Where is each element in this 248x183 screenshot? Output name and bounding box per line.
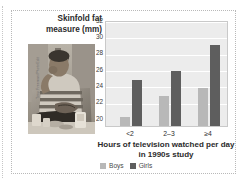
bar-girls-ge4[interactable] xyxy=(210,45,220,126)
legend-swatch-boys-icon xyxy=(100,163,106,169)
gridline xyxy=(106,71,227,72)
x-tick-label-2to3: 2–3 xyxy=(152,130,186,137)
x-axis-title: Hours of television watched per day in 1… xyxy=(96,140,236,160)
bar-chart-plot-area xyxy=(105,21,228,127)
legend-swatch-girls-icon xyxy=(130,163,136,169)
y-tick-label: 30 xyxy=(87,34,103,40)
gridline xyxy=(106,87,227,88)
bar-girls-lt2[interactable] xyxy=(132,80,142,126)
bar-boys-ge4[interactable] xyxy=(198,88,208,126)
y-tick-label: 32 xyxy=(87,18,103,24)
bar-boys-lt2[interactable] xyxy=(120,117,130,126)
gridline xyxy=(106,55,227,56)
y-tick-label: 22 xyxy=(87,99,103,105)
photo-credit: Tony Freeman/PhotoEdit xyxy=(36,37,40,99)
y-axis-tick-labels: 32 30 28 26 24 22 20 xyxy=(85,21,103,127)
legend-label-boys: Boys xyxy=(109,162,124,169)
x-axis-title-line1: Hours of television watched per day xyxy=(96,140,236,150)
y-tick-label: 28 xyxy=(87,50,103,56)
figure-left-rule xyxy=(2,6,4,178)
y-tick-label: 20 xyxy=(87,116,103,122)
figure-container: Skinfold fat measure (mm) xyxy=(0,0,248,183)
chart-legend: Boys Girls xyxy=(100,162,152,169)
legend-item-girls[interactable]: Girls xyxy=(130,162,153,169)
legend-label-girls: Girls xyxy=(139,162,153,169)
gridline xyxy=(106,22,227,23)
legend-item-boys[interactable]: Boys xyxy=(100,162,124,169)
bar-boys-2to3[interactable] xyxy=(159,96,169,126)
y-tick-label: 26 xyxy=(87,67,103,73)
gridline xyxy=(106,38,227,39)
x-axis-title-line2: in 1990s study xyxy=(96,150,236,160)
bar-girls-2to3[interactable] xyxy=(171,71,181,126)
x-tick-label-lt2: <2 xyxy=(113,130,147,137)
y-tick-label: 24 xyxy=(87,83,103,89)
x-tick-label-ge4: ≥4 xyxy=(191,130,225,137)
